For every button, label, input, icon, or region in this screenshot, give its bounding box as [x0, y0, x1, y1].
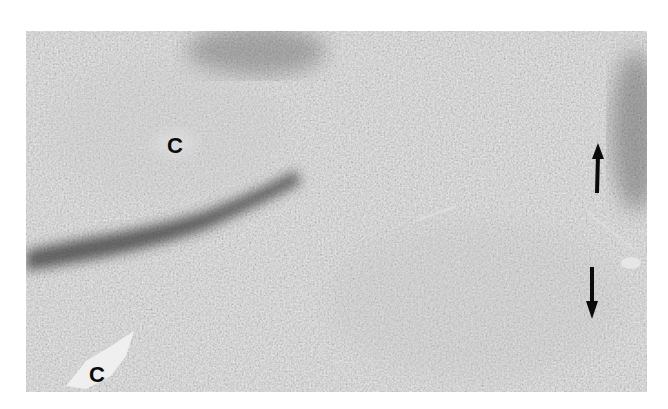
arrow-down-icon [584, 267, 600, 319]
micrograph: C C [26, 31, 647, 392]
label-c-lower: C [89, 364, 105, 386]
label-c-upper: C [167, 135, 183, 157]
tissue-texture [26, 31, 647, 392]
arrow-up-icon [589, 143, 605, 195]
